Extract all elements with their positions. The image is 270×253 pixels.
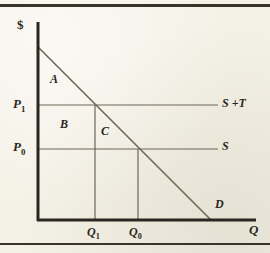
x-tick-q1-subscript: 1	[96, 232, 100, 241]
x-tick-label-q1: Q1	[87, 226, 100, 242]
x-tick-q0-subscript: 0	[138, 232, 142, 241]
area-label-c: C	[101, 125, 109, 137]
area-label-a: A	[50, 73, 58, 85]
area-label-b: B	[60, 118, 68, 130]
y-axis-label: $	[17, 18, 24, 31]
tax-incidence-figure: $ Q P1 P0 Q1 Q0 S +T S D A B C	[0, 0, 270, 253]
y-tick-p0-subscript: 0	[21, 147, 25, 157]
y-tick-p0-base: P	[13, 139, 21, 154]
x-axis-label: Q	[249, 223, 258, 236]
y-tick-p1-base: P	[13, 96, 21, 111]
y-tick-p1-subscript: 1	[21, 104, 25, 114]
y-tick-label-p1: P1	[13, 97, 25, 113]
supply-plus-tax-label: S +T	[222, 97, 246, 109]
demand-label: D	[215, 198, 224, 210]
x-tick-q1-base: Q	[87, 225, 96, 239]
demand-curve	[38, 47, 211, 220]
x-tick-q0-base: Q	[129, 225, 138, 239]
x-tick-label-q0: Q0	[129, 226, 142, 242]
y-tick-label-p0: P0	[13, 140, 25, 156]
supply-label: S	[222, 140, 229, 152]
plot-canvas	[0, 0, 270, 253]
